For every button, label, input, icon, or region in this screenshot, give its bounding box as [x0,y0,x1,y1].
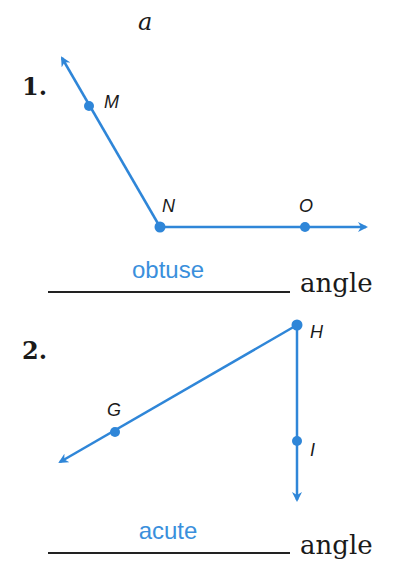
problem-2-number: 2. [22,336,47,365]
point-o [300,222,310,232]
point-h [292,320,303,331]
problem-2-answer: acute [48,517,288,545]
point-i [292,436,302,446]
label-o: O [299,196,313,217]
point-g [110,427,120,437]
problem-1-suffix: angle [300,268,373,298]
problem-1-answer-line [48,291,290,293]
point-m [84,101,94,111]
label-i: I [310,440,315,461]
angle-ghi [60,320,303,501]
angle-mno [62,58,366,233]
problem-1-answer: obtuse [48,256,288,284]
point-n [155,222,166,233]
ray-nm [62,58,160,227]
problem-2-answer-line [48,552,290,554]
label-h: H [310,322,323,343]
label-n: N [162,196,175,217]
label-m: M [104,92,119,113]
ray-hg [60,325,297,462]
label-g: G [107,400,121,421]
problem-2-suffix: angle [300,530,373,560]
